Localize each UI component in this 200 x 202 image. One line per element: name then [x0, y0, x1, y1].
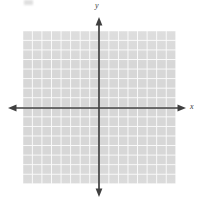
coordinate-plane-figure: y x	[0, 0, 200, 202]
axes-layer	[0, 0, 200, 202]
x-axis-label: x	[190, 103, 194, 111]
x-axis-arrow-right-icon	[178, 105, 187, 112]
y-axis	[96, 17, 103, 197]
y-axis-arrow-down-icon	[96, 189, 103, 198]
x-axis	[8, 105, 186, 112]
y-axis-arrow-up-icon	[96, 17, 103, 26]
x-axis-arrow-left-icon	[8, 105, 17, 112]
y-axis-label: y	[95, 2, 99, 10]
